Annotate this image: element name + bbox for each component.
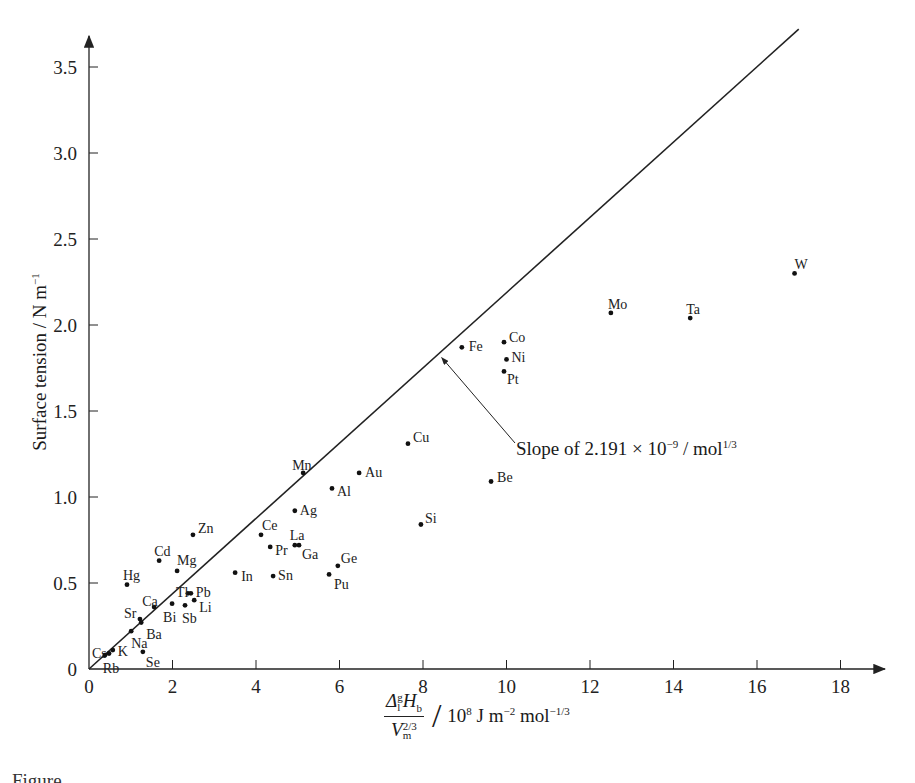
point-marker: [191, 532, 196, 537]
point-marker: [175, 569, 180, 574]
point-label: Sr: [124, 606, 137, 621]
data-point-ga: Ga: [297, 543, 320, 562]
point-label: Sn: [278, 568, 293, 583]
y-axis-label: Surface tension / N m−1: [29, 273, 51, 450]
point-label: W: [795, 257, 809, 272]
data-point-mn: Mn: [292, 458, 311, 475]
point-marker: [157, 558, 162, 563]
data-point-sr: Sr: [124, 606, 142, 621]
data-point-ce: Ce: [259, 518, 278, 537]
point-marker: [330, 486, 335, 491]
data-point-in: In: [233, 569, 253, 584]
point-label: Li: [199, 600, 212, 615]
point-label: Sb: [182, 611, 197, 626]
point-marker: [259, 532, 264, 537]
point-label: Bi: [163, 610, 176, 625]
point-label: Pt: [507, 372, 519, 387]
y-tick-label: 1.5: [53, 401, 77, 422]
data-point-w: W: [792, 257, 808, 275]
point-label: Cd: [154, 544, 170, 559]
point-marker: [271, 574, 276, 579]
data-point-pr: Pr: [268, 543, 288, 558]
point-label: Co: [509, 330, 525, 345]
fit-line: [89, 29, 799, 669]
data-point-al: Al: [330, 484, 352, 499]
data-point-cu: Cu: [406, 430, 430, 446]
point-label: Ca: [142, 594, 158, 609]
point-label: Mg: [177, 553, 196, 568]
point-marker: [502, 369, 507, 374]
data-point-tl: Tl: [176, 585, 190, 600]
data-point-hg: Hg: [123, 568, 140, 587]
data-point-sn: Sn: [271, 568, 293, 583]
point-marker: [459, 345, 464, 350]
y-tick-label: 2.0: [53, 315, 77, 336]
x-tick-label: 4: [251, 676, 261, 697]
scatter-chart: 00.51.01.52.02.53.03.5 024681012141618 W…: [0, 0, 915, 783]
point-marker: [102, 653, 107, 658]
point-label: Ni: [512, 350, 526, 365]
point-label: In: [241, 569, 253, 584]
point-marker: [188, 591, 193, 596]
point-marker: [110, 648, 115, 653]
point-marker: [335, 563, 340, 568]
data-point-be: Be: [489, 470, 513, 485]
point-marker: [107, 651, 112, 656]
data-point-se: Se: [140, 649, 159, 669]
point-marker: [170, 601, 175, 606]
data-point-fe: Fe: [459, 339, 482, 354]
point-label: Se: [146, 655, 160, 670]
point-marker: [125, 582, 130, 587]
x-tick-label: 12: [581, 676, 600, 697]
point-label: Fe: [469, 339, 483, 354]
point-label: Mo: [608, 297, 627, 312]
point-marker: [419, 522, 424, 527]
point-label: La: [290, 528, 306, 543]
data-point-rb: Rb: [102, 653, 119, 676]
data-point-ni: Ni: [504, 350, 526, 365]
point-label: Be: [497, 470, 513, 485]
point-label: Ga: [302, 547, 319, 562]
data-point-cd: Cd: [154, 544, 170, 563]
point-label: Ta: [686, 302, 701, 317]
point-label: Al: [337, 484, 351, 499]
data-point-mg: Mg: [175, 553, 197, 573]
point-marker: [129, 629, 134, 634]
point-label: Hg: [123, 568, 140, 583]
point-marker: [297, 543, 302, 548]
y-tick-label: 2.5: [53, 229, 77, 250]
point-label: Cu: [413, 430, 429, 445]
data-point-mo: Mo: [608, 297, 627, 315]
x-tick-label: 2: [168, 676, 178, 697]
y-tick-label: 3.5: [53, 57, 77, 78]
data-point-si: Si: [419, 511, 437, 527]
data-points: WMoTaCoFeNiPtCuMnAuBeAlAgSiZnCeLaGaPrCdG…: [92, 257, 809, 676]
x-axis-unit: 108 J m−2 mol−1/3: [447, 705, 569, 727]
point-label: Pu: [334, 577, 349, 592]
point-marker: [406, 441, 411, 446]
point-marker: [140, 649, 145, 654]
point-marker: [139, 620, 144, 625]
x-tick-label: 18: [831, 676, 850, 697]
point-marker: [327, 572, 332, 577]
point-label: Zn: [198, 521, 214, 536]
point-marker: [502, 340, 507, 345]
y-tick-label: 0.5: [53, 573, 77, 594]
point-label: Tl: [176, 585, 189, 600]
point-label: Mn: [292, 458, 311, 473]
data-point-co: Co: [502, 330, 526, 345]
point-label: Si: [425, 511, 437, 526]
data-point-ge: Ge: [335, 551, 357, 568]
point-label: Pr: [275, 543, 288, 558]
x-axis-fraction: ΔglHb V2/3m: [384, 690, 424, 741]
y-tick-label: 0: [68, 659, 78, 680]
y-ticks: 00.51.01.52.02.53.03.5: [53, 57, 98, 680]
x-axis-label: ΔglHb V2/3m / 108 J m−2 mol−1/3: [384, 690, 570, 741]
y-tick-label: 1.0: [53, 487, 77, 508]
point-marker: [268, 544, 273, 549]
point-label: Ba: [146, 627, 162, 642]
point-marker: [233, 570, 238, 575]
x-tick-label: 0: [84, 676, 94, 697]
point-label: Na: [131, 636, 148, 651]
point-label: Au: [365, 465, 382, 480]
